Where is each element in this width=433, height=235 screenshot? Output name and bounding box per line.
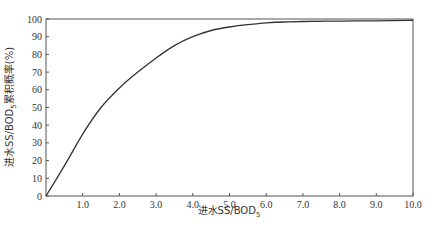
y-tick-label: 30 bbox=[32, 137, 42, 148]
cumulative-curve bbox=[46, 20, 413, 196]
y-tick-label: 10 bbox=[32, 173, 42, 184]
x-tick-label: 10.0 bbox=[404, 199, 422, 210]
y-tick-label: 20 bbox=[32, 155, 42, 166]
y-tick-label: 80 bbox=[32, 49, 42, 60]
x-axis-title: 进水SS/BOD5 bbox=[198, 205, 261, 219]
y-tick-label: 90 bbox=[32, 31, 42, 42]
x-tick-label: 6.0 bbox=[260, 199, 273, 210]
x-tick-label: 2.0 bbox=[113, 199, 126, 210]
x-tick-label: 8.0 bbox=[333, 199, 346, 210]
x-tick-label: 7.0 bbox=[297, 199, 310, 210]
y-tick-label: 60 bbox=[32, 84, 42, 95]
y-axis-title: 进水SS/BOD5累积概率(%) bbox=[3, 47, 18, 167]
x-tick-label: 9.0 bbox=[370, 199, 383, 210]
y-tick-label: 100 bbox=[27, 14, 42, 25]
x-tick-label: 1.0 bbox=[76, 199, 89, 210]
x-tick-label: 3.0 bbox=[150, 199, 163, 210]
cumulative-probability-chart: 1.02.03.04.05.06.07.08.09.010.0 01020304… bbox=[0, 0, 433, 235]
y-tick-label: 40 bbox=[32, 120, 42, 131]
y-tick-label: 70 bbox=[32, 67, 42, 78]
y-tick-label: 50 bbox=[32, 102, 42, 113]
y-tick-label: 0 bbox=[37, 191, 42, 202]
